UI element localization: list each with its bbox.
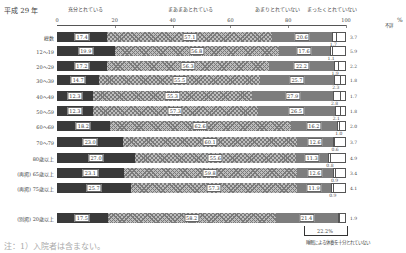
segment-value: 55.5 (172, 76, 187, 84)
no-answer-value: 1.8 (350, 109, 357, 114)
bar-segment: 25.7 (57, 183, 131, 193)
bar-segment: 11.3 (296, 153, 329, 163)
segment-value: 26.5 (289, 107, 304, 115)
x-axis-line (57, 25, 346, 26)
segment-value: 17.4 (75, 33, 90, 41)
segment-value: 27.0 (88, 154, 103, 162)
segment-value: 55.3 (165, 92, 180, 100)
segment-value: 57.3 (206, 184, 221, 192)
row-label: 40～49 (0, 93, 54, 100)
bar-segment (335, 137, 346, 147)
bar-segment: 14.7 (57, 75, 99, 85)
segment-value: 57.3 (168, 107, 183, 115)
x-tick: 40 (169, 17, 175, 23)
bar-segment: 19.9 (57, 46, 115, 56)
row-label: (別掲) 20歳以上 (0, 215, 54, 222)
bar-segment: 57.3 (131, 183, 297, 193)
stacked-bar: 14.755.525.7 (57, 75, 346, 85)
stacked-bar: 25.757.311.9 (57, 183, 346, 193)
segment-value: 16.2 (306, 122, 321, 130)
row-label: 50～59 (0, 108, 54, 115)
bar-segment: 12.6 (297, 168, 333, 178)
segment-value: 62.6 (192, 122, 207, 130)
no-answer-value: 4.1 (350, 186, 357, 191)
not-at-all-value: 2.3 (332, 85, 339, 90)
segment-value: 17.2 (74, 62, 89, 70)
bar-segment (333, 46, 346, 56)
bracket-value: 22.2% (317, 228, 333, 234)
segment-value: 18.2 (76, 122, 91, 130)
no-answer-value: 2.2 (350, 64, 357, 69)
row-label: (再掲) 65歳以上 (0, 170, 54, 177)
bar-segment (331, 153, 346, 163)
bar-segment: 23.0 (57, 137, 123, 147)
bar-segment (340, 121, 346, 131)
x-tick: 20 (112, 17, 118, 23)
no-answer-value: 3.7 (350, 140, 357, 145)
legend-item: まあまあとれている (168, 5, 213, 12)
bar-segment: 62.6 (110, 121, 291, 131)
segment-value: 14.7 (71, 76, 86, 84)
segment-value: 21.4 (299, 214, 314, 222)
segment-value: 17.6 (296, 47, 311, 55)
bar-segment: 55.6 (135, 153, 296, 163)
stacked-bar: 23.159.812.6 (57, 168, 346, 178)
not-at-all-value: 1.0 (335, 131, 342, 136)
bar-segment (334, 183, 346, 193)
not-at-all-value: 0.9 (329, 193, 336, 198)
legend-no-answer: 不詳 (385, 22, 393, 28)
stacked-bar: 12.355.327.9 (57, 91, 346, 101)
bar-segment: 11.9 (297, 183, 331, 193)
bar-segment: 26.5 (258, 106, 335, 116)
segment-value: 22.2 (294, 62, 309, 70)
stacked-bar: 17.457.120.6 (57, 32, 346, 42)
segment-value: 56.3 (180, 62, 195, 70)
row-label: 70～79 (0, 139, 54, 146)
no-answer-value: 1.9 (350, 216, 357, 221)
x-tick: 0 (55, 17, 58, 23)
bar-segment (340, 213, 345, 223)
segment-value: 23.1 (83, 169, 98, 177)
bar-segment: 21.4 (276, 213, 338, 223)
bar-segment: 56.3 (107, 61, 270, 71)
bar-segment: 25.7 (260, 75, 334, 85)
segment-value: 12.6 (307, 169, 322, 177)
bar-segment: 57.1 (107, 32, 272, 42)
segment-value: 20.6 (294, 33, 309, 41)
no-answer-value: 5.9 (350, 49, 357, 54)
bar-segment (337, 32, 346, 42)
bar-segment (341, 91, 346, 101)
no-answer-value: 3.4 (350, 171, 357, 176)
legend-item: まったくとれていない (307, 5, 357, 12)
bar-segment: 58.2 (108, 213, 276, 223)
bar-segment: 57.3 (93, 106, 259, 116)
row-label: 60～69 (0, 123, 54, 130)
bar-segment: 60.1 (123, 137, 297, 147)
no-answer-value: 4.9 (350, 156, 357, 161)
pct-unit: % (397, 16, 403, 23)
bar-segment: 16.2 (291, 121, 338, 131)
bar-segment: 17.4 (57, 32, 107, 42)
bar-segment: 56.8 (115, 46, 279, 56)
row-label: 30～39 (0, 77, 54, 84)
row-label: (再掲) 75歳以上 (0, 185, 54, 192)
bar-segment: 55.3 (93, 91, 253, 101)
x-tick: 80 (285, 17, 291, 23)
legend-item: あまりとれていない (255, 5, 300, 12)
segment-value: 12.3 (67, 107, 82, 115)
segment-value: 11.9 (306, 184, 321, 192)
no-answer-value: 3.7 (350, 35, 357, 40)
segment-value: 11.3 (304, 154, 319, 162)
segment-value: 23.0 (83, 138, 98, 146)
stacked-bar: 17.558.221.4 (57, 213, 346, 223)
chart-title: 平成 29 年 (4, 5, 38, 15)
bar-segment (333, 91, 341, 101)
x-tick: 60 (227, 17, 233, 23)
bar-segment (334, 75, 341, 85)
bar-segment (341, 106, 346, 116)
bar-segment: 20.6 (272, 32, 332, 42)
row-label: 80歳以上 (0, 155, 54, 162)
segment-value: 58.2 (184, 214, 199, 222)
bar-segment: 18.2 (57, 121, 110, 131)
row-label: 20～29 (0, 63, 54, 70)
